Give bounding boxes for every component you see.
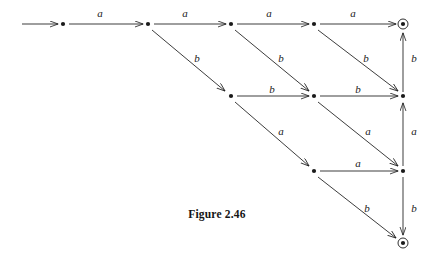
edge-label-q3-r4: b — [363, 53, 369, 64]
state-node-r4 — [401, 94, 405, 98]
edge-label-q3-q4: a — [350, 8, 356, 19]
edges-group — [22, 24, 403, 238]
state-node-r2 — [229, 94, 233, 98]
edge-q1-r2-b — [152, 30, 225, 91]
edge-label-r3-r4: b — [355, 84, 361, 95]
edge-label-q1-r2: b — [194, 53, 200, 64]
state-node-q1 — [146, 22, 150, 26]
edge-label-q0-q1: a — [97, 8, 103, 19]
edge-label-r4-q4: b — [411, 53, 417, 64]
figure-caption: Figure 2.46 — [0, 208, 434, 220]
edge-label-q1-q2: a — [182, 8, 188, 19]
accepting-state-node-q4 — [398, 19, 408, 29]
state-node-q3 — [312, 22, 316, 26]
edge-label-r3-s4: a — [365, 126, 371, 137]
state-node-r3 — [312, 94, 316, 98]
state-node-s4 — [401, 169, 405, 173]
edge-label-q2-q3: a — [266, 8, 272, 19]
edge-label-r2-s3: a — [278, 126, 284, 137]
state-node-s3 — [312, 169, 316, 173]
edge-label-s3-s4: a — [355, 158, 361, 169]
accepting-state-node-t4 — [398, 238, 408, 248]
state-node-q2 — [229, 22, 233, 26]
edge-label-r2-r3: b — [269, 84, 275, 95]
edge-r2-s3-a — [235, 102, 309, 166]
state-node-q0 — [61, 22, 65, 26]
edge-label-q2-r3: b — [278, 53, 284, 64]
figure-page: a a a a b b b b b b a a a a b b Figure 2… — [0, 0, 434, 263]
edge-label-s4-r4: a — [411, 126, 417, 137]
